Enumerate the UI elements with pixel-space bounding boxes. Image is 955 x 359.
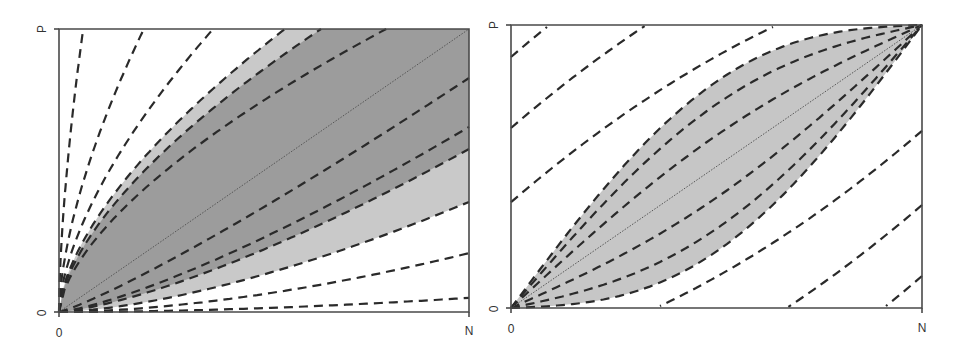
left-x-label-N: N (465, 324, 474, 338)
left-x-label-0: 0 (56, 326, 63, 340)
left-chart-panel: P 0 0 N (35, 25, 473, 340)
figure: P 0 0 N P 0 0 N (0, 0, 955, 359)
right-isoline-upper-outer-1 (511, 26, 645, 128)
right-chart-panel: P 0 0 N (487, 21, 926, 336)
right-x-label-0: 0 (508, 322, 515, 336)
right-y-label-0: 0 (487, 305, 501, 312)
left-y-label-0: 0 (35, 309, 49, 316)
right-isoline-lower-outer-0 (886, 276, 922, 306)
right-isoline-upper-outer-0 (511, 27, 547, 57)
right-x-label-N: N (918, 321, 927, 335)
left-y-label-P: P (35, 25, 49, 33)
right-isoline-lower-outer-1 (788, 205, 922, 307)
right-y-label-P: P (487, 21, 501, 29)
